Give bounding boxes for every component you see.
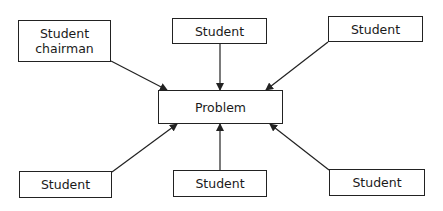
student-label: Student [352, 175, 401, 190]
student-label: Student [351, 22, 400, 37]
arrow-chairman-to-problem [111, 61, 167, 90]
student-label: Student [195, 176, 244, 191]
student-chairman-label-line1: Student [40, 26, 89, 41]
student-chairman-box: Student chairman [18, 20, 111, 62]
student-chairman-label-line2: chairman [35, 41, 94, 56]
student-box-bottom-left: Student [19, 171, 112, 198]
arrow-bottom-left-to-problem [112, 124, 177, 172]
student-box-bottom-right: Student [329, 169, 425, 196]
student-label: Student [195, 24, 244, 39]
student-box-bottom-center: Student [173, 170, 267, 197]
student-box-top-right: Student [328, 16, 423, 42]
problem-box: Problem [158, 90, 283, 124]
arrow-bottom-right-to-problem [270, 124, 329, 170]
arrow-top-right-to-problem [266, 42, 328, 90]
student-box-top-center: Student [172, 18, 267, 44]
student-label: Student [41, 177, 90, 192]
problem-label: Problem [195, 100, 246, 115]
